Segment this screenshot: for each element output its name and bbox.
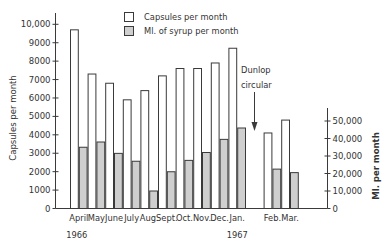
bar-capsules: [88, 74, 96, 208]
left-axis-tick-label: 8000: [29, 56, 51, 66]
x-axis-month-label: Mar.: [281, 213, 299, 223]
bar-syrup: [291, 173, 299, 209]
left-axis-title: Capsules per month: [8, 75, 18, 161]
right-y-axis: 010,00020,00030,00040,00050,000: [325, 108, 363, 214]
annotation-line-2: circular: [241, 80, 272, 90]
x-axis-month-label: June: [104, 213, 123, 223]
bar-capsules: [106, 83, 114, 208]
x-axis-month-label: Dec.: [210, 213, 229, 223]
left-axis-tick-label: 3000: [29, 148, 51, 158]
bar-syrup: [238, 128, 246, 209]
bar-capsules: [194, 69, 202, 209]
bar-syrup: [79, 147, 87, 208]
right-axis-tick-label: 20,000: [333, 169, 363, 179]
bar-capsules: [211, 63, 219, 209]
right-axis-tick-label: 0: [333, 204, 338, 214]
bar-syrup: [150, 191, 158, 209]
bar-syrup: [115, 153, 123, 208]
bar-syrup: [167, 172, 175, 209]
right-axis-tick-label: 30,000: [333, 151, 363, 161]
bar-syrup: [273, 169, 281, 208]
bar-capsules: [229, 48, 237, 208]
left-axis-tick-label: 0: [45, 204, 50, 214]
bar-capsules: [141, 91, 149, 209]
chart-container: 010002000300040005000600070008000900010,…: [0, 0, 387, 244]
bar-syrup: [220, 139, 228, 208]
left-axis-tick-label: 1000: [29, 185, 51, 195]
dunlop-annotation: Dunlop circular: [241, 65, 272, 131]
right-axis-tick-label: 50,000: [333, 116, 363, 126]
left-axis-tick-label: 5000: [29, 111, 51, 121]
bar-capsules: [71, 30, 79, 209]
left-axis-tick-label: 6000: [29, 93, 51, 103]
left-axis-tick-label: 10,000: [21, 19, 51, 29]
legend-label-capsules: Capsules per month: [144, 12, 227, 22]
annotation-line-1: Dunlop: [241, 65, 271, 75]
x-axis-month-label: April: [69, 213, 88, 223]
x-axis-month-label: July: [123, 213, 139, 223]
bar-capsules: [159, 76, 167, 209]
legend: Capsules per month Ml. of syrup per mont…: [125, 12, 239, 36]
x-axis-month-label: Nov.: [193, 213, 211, 223]
bar-capsules: [176, 69, 184, 209]
x-axis-month-label: Feb.: [264, 213, 281, 223]
left-axis-tick-label: 7000: [29, 75, 51, 85]
down-arrow-icon: [252, 122, 258, 131]
legend-label-syrup: Ml. of syrup per month: [144, 26, 239, 36]
dual-axis-bar-chart: 010002000300040005000600070008000900010,…: [0, 0, 387, 244]
left-axis-tick-label: 2000: [29, 167, 51, 177]
x-axis-labels: AprilMayJuneJulyAug.Sept.Oct.Nov.Dec.Jan…: [66, 213, 299, 240]
left-axis-tick-label: 9000: [29, 38, 51, 48]
bar-syrup: [185, 160, 193, 208]
legend-swatch-capsules: [125, 13, 134, 22]
right-axis-tick-label: 40,000: [333, 134, 363, 144]
x-axis-month-label: Sept.: [156, 213, 178, 223]
x-axis-year-label: 1967: [227, 230, 248, 240]
x-axis-year-label: 1966: [66, 230, 87, 240]
left-axis-tick-label: 4000: [29, 130, 51, 140]
bar-syrup: [132, 161, 140, 208]
x-axis-month-label: Jan.: [228, 213, 244, 223]
bar-capsules: [123, 100, 131, 209]
right-axis-tick-label: 10,000: [333, 186, 363, 196]
legend-swatch-syrup: [125, 27, 134, 36]
bar-capsules: [282, 120, 290, 208]
x-axis-month-label: Oct.: [176, 213, 193, 223]
bar-syrup: [203, 153, 211, 209]
x-axis-month-label: May: [88, 213, 105, 223]
bar-capsules: [264, 133, 272, 209]
bars: [71, 30, 299, 209]
bar-syrup: [97, 142, 105, 209]
right-axis-title: Ml. per month: [371, 132, 381, 199]
